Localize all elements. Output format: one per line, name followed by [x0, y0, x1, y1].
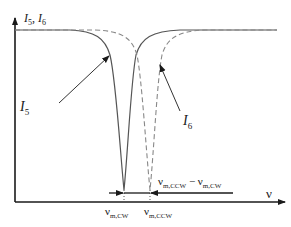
label-i6: I6 — [182, 113, 193, 131]
y-axis-label: I5, I6 — [23, 11, 46, 27]
tick-label-ccw: νm,CCW — [144, 205, 173, 220]
x-axis-label: ν — [266, 186, 272, 201]
tick-label-cw: νm,CW — [105, 205, 129, 220]
label-i5: I5 — [19, 99, 30, 117]
curve-i5 — [15, 30, 277, 190]
pointer-i6 — [160, 65, 180, 111]
pointer-i5 — [59, 56, 109, 103]
difference-label: νm,CCW − νm,CW — [158, 175, 222, 190]
curve-i6 — [15, 30, 277, 190]
diagram-canvas: I5, I6 I5 I6 ν νm,CCW − νm,CW νm,CW νm,C… — [0, 0, 291, 227]
